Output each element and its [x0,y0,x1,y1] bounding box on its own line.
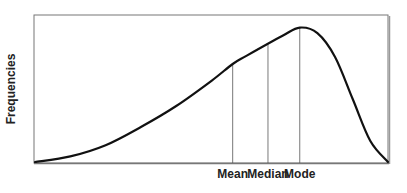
marker-label-mean: Mean [217,167,248,181]
marker-label-median: Median [247,167,288,181]
marker-label-mode: Mode [284,167,315,181]
y-axis-label: Frequencies [4,54,18,125]
plot-frame [34,15,388,163]
skewed-distribution-chart [0,0,407,193]
